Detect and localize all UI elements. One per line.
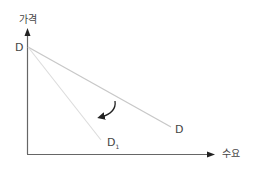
demand-curve-d: [28, 47, 171, 127]
curve-label-d1: D1: [107, 137, 119, 150]
demand-diagram: [0, 0, 259, 175]
demand-curve-d1: [28, 47, 101, 140]
rotation-arrow-icon: [101, 101, 115, 117]
x-axis-label: 수요: [222, 149, 240, 159]
curve-label-d: D: [175, 124, 183, 135]
x-axis-arrow-icon: [207, 152, 215, 158]
intercept-label-d: D: [15, 42, 23, 53]
y-axis-arrow-icon: [25, 28, 31, 36]
y-axis-label: 가격: [19, 15, 37, 25]
